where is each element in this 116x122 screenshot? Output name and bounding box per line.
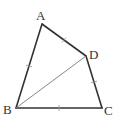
segment-BD bbox=[16, 56, 86, 108]
vertex-label-B: B bbox=[3, 102, 12, 117]
geometry-figure: A B C D bbox=[0, 0, 116, 122]
vertex-label-C: C bbox=[104, 103, 113, 118]
vertex-label-D: D bbox=[89, 47, 98, 62]
vertex-label-A: A bbox=[36, 8, 46, 23]
